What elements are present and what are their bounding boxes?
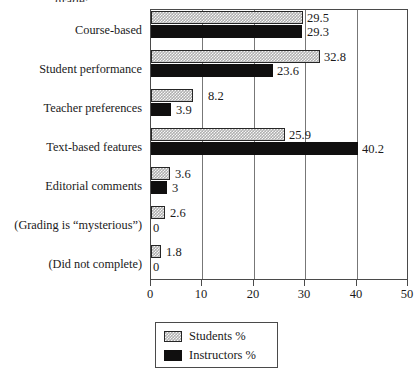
- bar-instructors-course-based: [151, 25, 302, 38]
- legend-entry-instructors: Instructors %: [164, 347, 256, 363]
- value-label-students-student-performance: 32.8: [324, 51, 346, 64]
- plot-area: 29.5 29.3 32.8 23.6 8.2 3.9 25.9 40.2 3.…: [150, 9, 408, 280]
- value-label-instructors-text-based-features: 40.2: [362, 143, 384, 156]
- caption-fragment: grade:: [55, 0, 89, 2]
- x-tick-40: [356, 280, 357, 286]
- value-label-students-grading-mysterious: 2.6: [170, 207, 186, 220]
- x-tick-label-10: 10: [195, 287, 208, 301]
- legend-label-instructors: Instructors %: [189, 348, 256, 362]
- value-label-students-teacher-preferences: 8.2: [208, 90, 224, 103]
- bar-instructors-editorial-comments: [151, 181, 167, 194]
- bar-students-text-based-features: [151, 128, 285, 141]
- x-tick-label-20: 20: [247, 287, 260, 301]
- legend-entry-students: Students %: [164, 328, 246, 344]
- value-label-instructors-editorial-comments: 3: [172, 182, 178, 195]
- value-label-instructors-did-not-complete: 0: [153, 261, 159, 274]
- bar-students-teacher-preferences: [151, 89, 193, 102]
- value-label-instructors-teacher-preferences: 3.9: [176, 104, 192, 117]
- value-label-students-editorial-comments: 3.6: [175, 168, 191, 181]
- category-label-editorial-comments: Editorial comments: [0, 179, 142, 193]
- x-tick-label-30: 30: [298, 287, 311, 301]
- category-label-text-based-features: Text-based features: [0, 140, 142, 154]
- value-label-students-text-based-features: 25.9: [289, 129, 311, 142]
- bar-students-did-not-complete: [151, 245, 161, 258]
- bar-students-editorial-comments: [151, 167, 170, 180]
- bar-chart-figure: grade: Course-based Student performance …: [0, 0, 417, 377]
- category-label-grading-mysterious: (Grading is “mysterious”): [0, 218, 142, 232]
- legend-swatch-students-icon: [164, 331, 182, 342]
- category-label-course-based: Course-based: [0, 23, 142, 37]
- legend-swatch-instructors-icon: [164, 350, 182, 361]
- x-tick-label-50: 50: [401, 287, 414, 301]
- x-tick-label-0: 0: [147, 287, 153, 301]
- value-label-students-course-based: 29.5: [307, 12, 329, 25]
- value-label-instructors-student-performance: 23.6: [277, 65, 299, 78]
- bar-instructors-text-based-features: [151, 142, 358, 155]
- category-label-student-performance: Student performance: [0, 62, 142, 76]
- x-tick-0: [150, 280, 151, 286]
- x-axis: 0 10 20 30 40 50: [150, 280, 408, 302]
- bar-instructors-student-performance: [151, 64, 273, 77]
- chart-legend: Students % Instructors %: [155, 322, 278, 368]
- x-tick-10: [201, 280, 202, 286]
- x-tick-20: [253, 280, 254, 286]
- bar-instructors-teacher-preferences: [151, 103, 171, 116]
- x-tick-50: [407, 280, 408, 286]
- bar-students-grading-mysterious: [151, 206, 165, 219]
- bar-students-course-based: [151, 11, 303, 24]
- legend-label-students: Students %: [189, 329, 246, 343]
- x-tick-label-40: 40: [350, 287, 363, 301]
- category-label-teacher-preferences: Teacher preferences: [0, 101, 142, 115]
- category-axis-labels: Course-based Student performance Teacher…: [0, 9, 147, 280]
- x-tick-30: [304, 280, 305, 286]
- bar-students-student-performance: [151, 50, 320, 63]
- value-label-instructors-grading-mysterious: 0: [153, 222, 159, 235]
- value-label-instructors-course-based: 29.3: [307, 26, 329, 39]
- category-label-did-not-complete: (Did not complete): [0, 257, 142, 271]
- value-label-students-did-not-complete: 1.8: [166, 246, 182, 259]
